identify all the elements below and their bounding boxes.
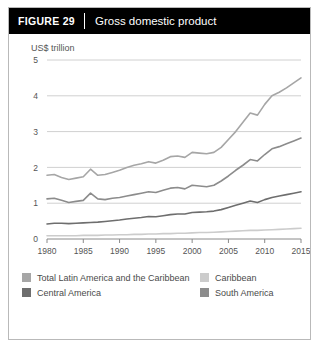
legend-item-caribbean: Caribbean <box>200 273 257 283</box>
chart-plot-area: US$ trillion 012345 19801985199019952000… <box>9 34 310 270</box>
x-axis-line <box>47 239 301 243</box>
legend-item-total: Total Latin America and the Caribbean <box>22 273 200 283</box>
legend-swatch-caribbean <box>200 273 209 282</box>
figure-header: FIGURE 29 Gross domestic product <box>9 8 310 34</box>
series-line <box>47 228 301 236</box>
legend-swatch-total <box>22 273 31 282</box>
x-tick-label: 1995 <box>146 246 165 256</box>
x-tick-label: 2015 <box>292 246 310 256</box>
legend-label-caribbean: Caribbean <box>215 273 257 283</box>
legend-swatch-central-america <box>22 288 31 297</box>
x-tick-label: 2010 <box>255 246 274 256</box>
x-tick-label: 1980 <box>38 246 57 256</box>
gridlines <box>47 60 301 203</box>
series-line <box>47 138 301 202</box>
x-axis-tick-labels: 19801985199019952000200520102015 <box>38 246 310 256</box>
legend-row: Total Latin America and the Caribbean Ca… <box>22 270 300 285</box>
line-chart-svg: 012345 19801985199019952000200520102015 <box>9 34 310 270</box>
x-tick-label: 2005 <box>219 246 238 256</box>
series-line <box>47 78 301 180</box>
x-tick-label: 1985 <box>74 246 93 256</box>
y-tick-label: 0 <box>33 234 38 244</box>
figure-title: Gross domestic product <box>85 15 216 27</box>
y-tick-label: 5 <box>33 55 38 65</box>
x-tick-label: 1990 <box>110 246 129 256</box>
y-tick-label: 2 <box>33 163 38 173</box>
y-axis-tick-labels: 012345 <box>33 55 38 244</box>
series-line <box>47 192 301 224</box>
legend-label-south-america: South America <box>215 288 274 298</box>
figure-card: FIGURE 29 Gross domestic product US$ tri… <box>8 7 311 340</box>
y-tick-label: 4 <box>33 91 38 101</box>
legend-row: Central America South America <box>22 285 300 300</box>
y-tick-label: 3 <box>33 127 38 137</box>
legend-swatch-south-america <box>200 288 209 297</box>
chart-legend: Total Latin America and the Caribbean Ca… <box>9 270 310 300</box>
legend-item-south-america: South America <box>200 288 274 298</box>
figure-number-label: FIGURE 29 <box>9 15 84 27</box>
y-tick-label: 1 <box>33 198 38 208</box>
legend-label-total: Total Latin America and the Caribbean <box>37 273 190 283</box>
data-series-lines <box>47 78 301 236</box>
legend-label-central-america: Central America <box>37 288 101 298</box>
x-tick-label: 2000 <box>183 246 202 256</box>
legend-item-central-america: Central America <box>22 288 200 298</box>
